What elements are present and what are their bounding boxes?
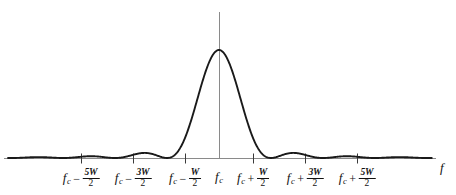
spectrum-figure: fc − 5W 2 fc − 3W 2 fc − W bbox=[0, 0, 456, 195]
tick-label-plus-5w-over-2: fc + 5W 2 bbox=[339, 168, 376, 189]
tick-label-plus-w-over-2: fc + W 2 bbox=[237, 168, 269, 189]
tick-label-minus-5w-over-2: fc − 5W 2 bbox=[63, 168, 100, 189]
tick-label-plus-3w-over-2: fc + 3W 2 bbox=[287, 168, 324, 189]
x-axis-variable-label: f bbox=[440, 160, 444, 176]
tick-label-center-fc: fc bbox=[215, 170, 223, 185]
tick-label-minus-3w-over-2: fc − 3W 2 bbox=[115, 168, 152, 189]
spectrum-plot-canvas bbox=[0, 0, 456, 195]
tick-label-minus-w-over-2: fc − W 2 bbox=[169, 168, 201, 189]
